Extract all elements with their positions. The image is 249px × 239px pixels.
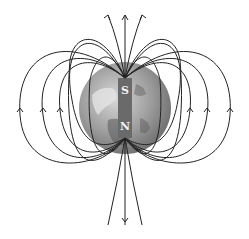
south-pole-label: S: [121, 84, 129, 97]
north-pole-label: N: [120, 120, 130, 133]
